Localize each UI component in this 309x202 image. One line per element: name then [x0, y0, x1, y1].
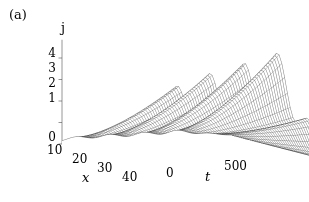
tick-label-x-0: 10: [47, 144, 62, 156]
tick-label-j-1: 3: [0, 62, 56, 74]
tick-label-x-1: 20: [72, 153, 87, 165]
tick-label-x-3: 40: [122, 171, 137, 183]
tick-label-t-1: 500: [224, 160, 247, 172]
tick-label-j-0: 4: [0, 47, 56, 59]
tick-label-j-2: 2: [0, 77, 56, 89]
figure-panel-a: (a) j x t 43210 10203040 0500: [0, 0, 309, 202]
axis-label-x: x: [82, 171, 89, 184]
axis-label-j: j: [61, 21, 65, 34]
axis-label-t: t: [205, 170, 210, 183]
tick-label-j-4: 0: [0, 131, 56, 143]
tick-label-t-0: 0: [166, 167, 174, 179]
panel-label: (a): [9, 8, 27, 21]
tick-label-x-2: 30: [97, 162, 112, 174]
tick-label-j-3: 1: [0, 92, 56, 104]
